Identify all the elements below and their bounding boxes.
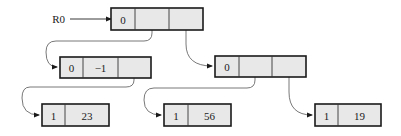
nodes: 00−10123156119 xyxy=(42,8,381,126)
node-right-internal: 0 xyxy=(215,56,306,77)
root-label: R0 xyxy=(52,13,65,25)
cell-value: −1 xyxy=(95,62,107,74)
cell-value: 1 xyxy=(51,110,57,122)
node-leaf-19: 119 xyxy=(315,104,381,126)
cell-value: 1 xyxy=(173,110,179,122)
cell-value: 0 xyxy=(224,61,230,73)
cell-value: 1 xyxy=(324,110,330,122)
node-leaf-23: 123 xyxy=(42,104,109,126)
tree-diagram: R0 00−10123156119 xyxy=(0,0,401,136)
node-leaf-56: 156 xyxy=(164,104,231,126)
cell-value: 56 xyxy=(204,110,216,122)
node-root: 0 xyxy=(111,8,203,30)
cell-value: 23 xyxy=(82,110,94,122)
cell-value: 0 xyxy=(120,14,126,26)
cell-value: 0 xyxy=(69,62,75,74)
cell-value: 19 xyxy=(354,110,366,122)
root-pointer: R0 xyxy=(52,13,111,25)
node-left-internal: 0−1 xyxy=(60,57,151,78)
